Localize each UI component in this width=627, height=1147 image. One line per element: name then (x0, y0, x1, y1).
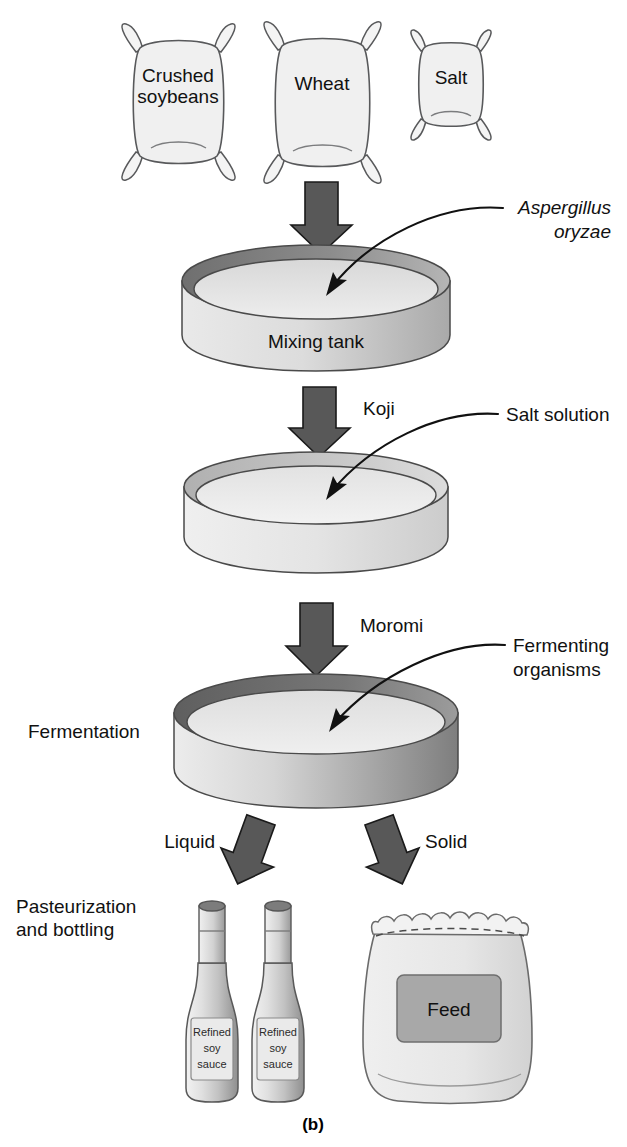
annotation-fermenting-line1: Fermenting (513, 635, 609, 656)
ingredient-sack-wheat: Wheat (264, 22, 381, 183)
bottle-label-line2: soy (269, 1042, 287, 1054)
soy-sauce-process-diagram: Crushed soybeans Wheat Salt Mixing tank (0, 0, 627, 1147)
flow-arrow-moromi: Moromi (286, 603, 423, 676)
sack-label-soybeans-line1: Crushed (142, 65, 214, 86)
feed-sack-label: Feed (427, 999, 470, 1020)
vessel-label-mixing-tank: Mixing tank (268, 331, 365, 352)
ingredient-sack-salt: Salt (411, 30, 491, 140)
stage-label-fermentation: Fermentation (28, 721, 140, 742)
annotation-aspergillus-line1: Aspergillus (517, 197, 611, 218)
vessel-mixing-tank: Mixing tank (182, 245, 450, 371)
bottle-label-line3: sauce (263, 1058, 292, 1070)
bottle-label-line1: Refined (259, 1026, 297, 1038)
bottle-label-line3: sauce (197, 1058, 226, 1070)
bottle-label-line2: soy (203, 1042, 221, 1054)
annotation-aspergillus-line2: oryzae (554, 221, 611, 242)
sack-label-wheat: Wheat (295, 73, 351, 94)
product-feed-sack: Feed (363, 912, 532, 1103)
flow-arrow-solid: Solid (353, 810, 468, 893)
flow-arrow-to-mixing-tank (291, 182, 352, 254)
product-bottle-2: Refined soy sauce (252, 901, 304, 1102)
bottle-label-line1: Refined (193, 1026, 231, 1038)
figure-caption: (b) (302, 1115, 324, 1134)
annotation-salt-solution-label: Salt solution (506, 404, 610, 425)
vessel-koji-tank (184, 452, 448, 573)
flow-label-moromi: Moromi (360, 615, 423, 636)
flow-arrow-koji: Koji (289, 387, 395, 457)
sack-label-salt: Salt (435, 67, 468, 88)
vessel-fermentation-tank (174, 674, 458, 808)
ingredient-sack-soybeans: Crushed soybeans (122, 24, 235, 180)
stage-label-pasteurization-line2: and bottling (16, 919, 114, 940)
flow-label-liquid: Liquid (164, 831, 215, 852)
sack-label-soybeans-line2: soybeans (137, 86, 218, 107)
annotation-fermenting-line2: organisms (513, 659, 601, 680)
flow-label-koji: Koji (363, 398, 395, 419)
stage-label-pasteurization-line1: Pasteurization (16, 896, 136, 917)
product-bottle-1: Refined soy sauce (186, 901, 238, 1102)
flow-label-solid: Solid (425, 831, 467, 852)
flow-arrow-liquid: Liquid (164, 810, 287, 893)
